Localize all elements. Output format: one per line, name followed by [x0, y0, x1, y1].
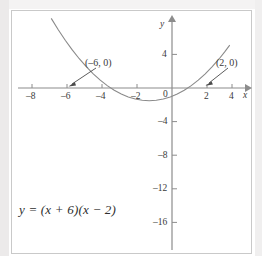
y-tick-label-neg12: –12 — [153, 184, 167, 194]
left-root-label: (–6, 0) — [85, 58, 112, 68]
y-tick-label-neg8: –8 — [158, 151, 168, 161]
x-tick-label-neg8: –8 — [26, 92, 36, 102]
y-axis-label: y — [160, 20, 164, 30]
x-tick-label-zero: 0 — [163, 90, 168, 100]
x-tick-label-neg6: –6 — [61, 92, 71, 102]
x-tick-label-neg4: –4 — [96, 92, 106, 102]
parabola-plot — [0, 0, 262, 256]
y-tick-label-4: 4 — [162, 50, 167, 60]
figure-screenshot: –8 –6 –4 –2 0 2 4 4 –4 –8 –12 –16 y x (–… — [0, 0, 262, 256]
equation-caption: y = (x + 6)(x − 2) — [19, 203, 116, 216]
left-root-leader — [69, 68, 97, 86]
y-axis — [168, 15, 177, 250]
x-tick-label-4: 4 — [229, 92, 234, 102]
y-tick-label-neg4: –4 — [158, 117, 168, 127]
right-root-label: (2, 0) — [216, 58, 238, 68]
x-axis-label: x — [243, 91, 247, 101]
y-tick-label-neg16: –16 — [153, 218, 167, 228]
x-tick-label-2: 2 — [204, 92, 209, 102]
x-tick-label-neg2: –2 — [131, 92, 141, 102]
